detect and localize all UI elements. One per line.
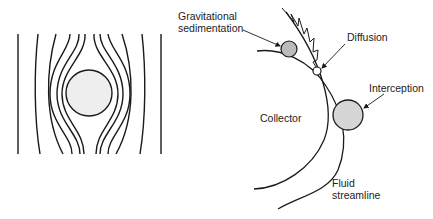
label-interception: Interception [369, 82, 424, 94]
streamline [49, 34, 63, 154]
label-gravitational-line1: Gravitational [178, 10, 243, 22]
streamline [140, 34, 145, 154]
diffusion-zigzag-path [282, 8, 318, 67]
label-fluid-streamline: Fluid streamline [332, 177, 380, 201]
diffusion-arrow [322, 44, 345, 68]
streamline [35, 34, 40, 154]
diffusion-particle [313, 67, 321, 75]
interception-particle [333, 100, 363, 130]
label-fluid-line1: Fluid [332, 177, 380, 189]
fluid-streamline [257, 51, 344, 209]
label-fluid-line2: streamline [332, 189, 380, 201]
collector-surface-arc [254, 12, 328, 189]
label-diffusion: Diffusion [347, 31, 388, 43]
gravitational-particle [281, 41, 297, 57]
interception-arrow [364, 94, 384, 108]
label-collector: Collector [260, 112, 301, 124]
label-gravitational-line2: sedimentation [178, 22, 243, 34]
gravitational-arrow [243, 30, 280, 46]
label-gravitational: Gravitational sedimentation [178, 10, 243, 34]
collector-sphere [66, 70, 112, 116]
